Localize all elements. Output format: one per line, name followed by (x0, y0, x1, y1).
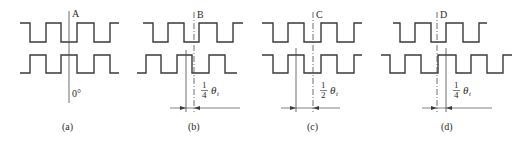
arrow-right-icon (290, 106, 296, 110)
phase-shift-label: 14θt (453, 80, 472, 100)
top-square-wave (143, 23, 243, 42)
phase-shift-label: 12θt (320, 80, 339, 100)
panel-caption: (c) (307, 121, 318, 133)
square-wave-phase-figure: A0°(a)B14θt(b)C12θt(c)D14θt(d) (0, 0, 524, 142)
reference-label: B (197, 9, 204, 20)
reference-label: D (440, 9, 447, 20)
panel-caption: (a) (62, 121, 73, 133)
fraction-numerator: 1 (321, 80, 326, 90)
top-square-wave (20, 23, 119, 42)
fraction-denominator: 2 (321, 90, 326, 100)
arrow-right-icon (431, 106, 437, 110)
theta-subscript: t (336, 90, 339, 98)
phase-shift-label: 14θt (201, 80, 220, 100)
fraction-denominator: 4 (454, 90, 459, 100)
theta-subscript: t (469, 90, 472, 98)
bottom-square-wave (20, 55, 119, 73)
arrow-left-icon (194, 106, 200, 110)
angle-label: 0° (72, 88, 81, 99)
arrow-left-icon (446, 106, 452, 110)
panel-a: A0°(a) (20, 8, 119, 133)
fraction-denominator: 4 (202, 90, 207, 100)
panel-b: B14θt(b) (137, 9, 243, 133)
phase-shift-diagram: A0°(a)B14θt(b)C12θt(c)D14θt(d) (0, 0, 524, 142)
reference-label: C (316, 9, 323, 20)
bottom-square-wave (137, 55, 237, 73)
panel-c: C12θt(c) (262, 9, 362, 133)
panel-caption: (d) (441, 121, 453, 133)
panel-d: D14θt(d) (381, 9, 512, 133)
panel-caption: (b) (188, 121, 200, 133)
reference-label: A (72, 8, 80, 19)
arrow-left-icon (313, 106, 319, 110)
arrow-right-icon (180, 106, 186, 110)
fraction-numerator: 1 (454, 80, 459, 90)
top-square-wave (393, 23, 487, 42)
fraction-numerator: 1 (202, 80, 207, 90)
theta-subscript: t (217, 90, 220, 98)
top-square-wave (262, 23, 362, 42)
bottom-square-wave (262, 55, 362, 73)
bottom-square-wave (381, 55, 512, 73)
